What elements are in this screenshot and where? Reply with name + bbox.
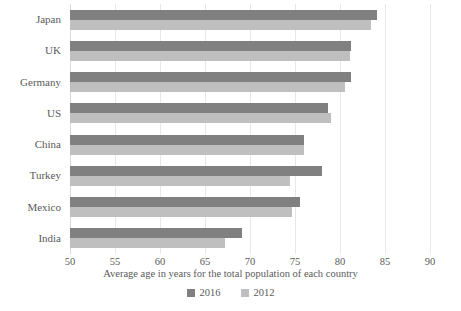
bar-groups bbox=[70, 4, 430, 254]
bar-2012-UK[interactable] bbox=[70, 51, 350, 61]
bar-2012-Turkey[interactable] bbox=[70, 176, 290, 186]
bar-2016-Turkey[interactable] bbox=[70, 166, 322, 176]
bar-group bbox=[70, 98, 430, 129]
category-label: UK bbox=[0, 35, 66, 66]
bar-2012-Mexico[interactable] bbox=[70, 207, 292, 217]
gridline bbox=[430, 4, 431, 254]
category-axis-labels: JapanUKGermanyUSChinaTurkeyMexicoIndia bbox=[0, 4, 66, 254]
bar-group bbox=[70, 67, 430, 98]
category-label: Mexico bbox=[0, 192, 66, 223]
plot-area bbox=[70, 4, 430, 254]
bar-2016-US[interactable] bbox=[70, 103, 328, 113]
legend-label: 2016 bbox=[200, 288, 221, 299]
category-label: China bbox=[0, 129, 66, 160]
bar-2016-Germany[interactable] bbox=[70, 72, 351, 82]
bar-2012-China[interactable] bbox=[70, 145, 304, 155]
bar-2016-Japan[interactable] bbox=[70, 10, 377, 20]
legend-item-2016[interactable]: 2016 bbox=[187, 288, 221, 299]
bar-chart: JapanUKGermanyUSChinaTurkeyMexicoIndia 5… bbox=[0, 0, 461, 311]
x-axis-title: Average age in years for the total popul… bbox=[0, 268, 461, 279]
category-label: Turkey bbox=[0, 160, 66, 191]
bar-2016-Mexico[interactable] bbox=[70, 197, 300, 207]
category-label: Germany bbox=[0, 67, 66, 98]
category-label: Japan bbox=[0, 4, 66, 35]
bar-2016-UK[interactable] bbox=[70, 41, 351, 51]
bar-group bbox=[70, 129, 430, 160]
legend-swatch-2016-icon bbox=[187, 289, 195, 297]
bar-group bbox=[70, 223, 430, 254]
bar-2016-China[interactable] bbox=[70, 135, 304, 145]
legend-label: 2012 bbox=[254, 288, 275, 299]
bar-2012-India[interactable] bbox=[70, 238, 225, 248]
plot-wrapper: JapanUKGermanyUSChinaTurkeyMexicoIndia bbox=[0, 0, 461, 258]
bar-group bbox=[70, 4, 430, 35]
chart-legend: 20162012 bbox=[0, 288, 461, 299]
legend-swatch-2012-icon bbox=[241, 289, 249, 297]
bar-group bbox=[70, 192, 430, 223]
bar-2012-Germany[interactable] bbox=[70, 82, 345, 92]
category-label: India bbox=[0, 223, 66, 254]
bar-2012-Japan[interactable] bbox=[70, 20, 371, 30]
category-label: US bbox=[0, 98, 66, 129]
bar-2012-US[interactable] bbox=[70, 113, 331, 123]
bar-2016-India[interactable] bbox=[70, 228, 242, 238]
bar-group bbox=[70, 35, 430, 66]
legend-item-2012[interactable]: 2012 bbox=[241, 288, 275, 299]
bar-group bbox=[70, 160, 430, 191]
